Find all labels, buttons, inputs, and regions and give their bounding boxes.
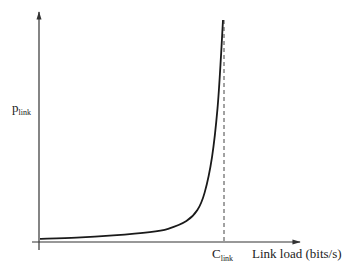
x-axis-label: Link load (bits/s): [252, 246, 342, 262]
load-curve: [40, 20, 223, 239]
y-label-subscript: link: [19, 108, 31, 117]
capacity-tick-label: Clink: [212, 246, 233, 263]
y-axis-label: plink: [12, 100, 31, 117]
tick-label-main: C: [212, 246, 221, 261]
chart-canvas: [0, 0, 345, 272]
tick-label-subscript: link: [221, 254, 233, 263]
